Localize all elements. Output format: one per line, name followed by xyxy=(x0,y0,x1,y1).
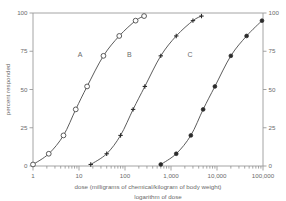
data-point-marker xyxy=(159,163,163,167)
curve-label-c: C xyxy=(188,51,193,58)
y-tick-label-right: 50 xyxy=(269,86,276,93)
data-point-marker xyxy=(143,84,147,88)
data-point-marker xyxy=(201,107,205,111)
data-point-marker xyxy=(133,18,138,23)
y-tick-label-left: 25 xyxy=(21,124,28,131)
data-point-marker xyxy=(213,85,217,89)
y-tick-label-left: 75 xyxy=(21,47,28,54)
curve-label-b: B xyxy=(127,51,132,58)
axes-group xyxy=(33,13,263,166)
data-point-marker xyxy=(142,14,147,19)
data-point-marker xyxy=(131,107,135,111)
data-point-marker xyxy=(73,107,78,112)
y-tick-label-left: 50 xyxy=(21,86,28,93)
y-tick-label-right: 100 xyxy=(269,9,280,16)
data-point-marker xyxy=(260,19,264,23)
x-tick-label: 1,000 xyxy=(163,172,179,179)
tick-labels-group: 1101001,00010,000100,0000025255050757510… xyxy=(17,9,279,179)
data-point-marker xyxy=(31,162,36,167)
data-point-marker xyxy=(189,134,193,138)
data-point-marker xyxy=(118,133,122,137)
data-point-marker xyxy=(101,53,106,58)
y-tick-label-left: 100 xyxy=(17,9,28,16)
data-point-marker xyxy=(159,54,163,58)
data-markers-group xyxy=(31,14,264,167)
data-point-marker xyxy=(174,152,178,156)
x-tick-label: 1 xyxy=(31,172,35,179)
x-tick-label: 100 xyxy=(120,172,131,179)
curve-c xyxy=(161,21,262,165)
chart-canvas: 1101001,00010,000100,0000025255050757510… xyxy=(0,0,286,201)
x-axis-title: dose (milligrams of chemical/kilogram of… xyxy=(75,183,222,190)
axis-titles-group: dose (milligrams of chemical/kilogram of… xyxy=(4,63,221,200)
x-axis-secondary-title: logarithm of dose xyxy=(134,193,182,200)
data-point-marker xyxy=(61,133,66,138)
curve-labels-group: ABC xyxy=(78,51,193,58)
y-tick-label-right: 25 xyxy=(269,124,276,131)
x-tick-label: 10,000 xyxy=(208,172,227,179)
data-point-marker xyxy=(229,54,233,58)
x-tick-label: 100,000 xyxy=(252,172,275,179)
x-tick-label: 10 xyxy=(76,172,83,179)
data-point-marker xyxy=(46,151,51,156)
data-point-marker xyxy=(245,34,249,38)
curves-group xyxy=(33,16,262,164)
data-point-marker xyxy=(117,34,122,39)
curve-b xyxy=(91,16,202,164)
y-tick-label-right: 75 xyxy=(269,47,276,54)
curve-a xyxy=(33,16,144,164)
data-point-marker xyxy=(199,14,203,18)
y-axis-title: percent responded xyxy=(4,63,11,115)
dose-response-chart-figure: 1101001,00010,000100,0000025255050757510… xyxy=(0,0,286,201)
data-point-marker xyxy=(85,84,90,89)
curve-label-a: A xyxy=(78,51,83,58)
y-tick-label-left: 0 xyxy=(24,162,28,169)
ticks-group xyxy=(30,13,267,171)
y-tick-label-right: 0 xyxy=(269,162,273,169)
